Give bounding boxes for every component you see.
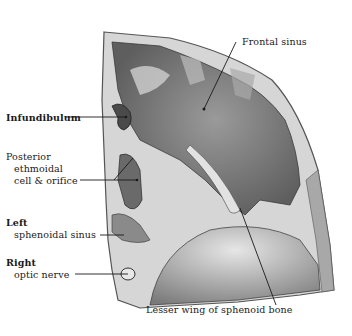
label-left-sphenoidal-1: Left xyxy=(6,217,28,228)
label-frontal-sinus: Frontal sinus xyxy=(242,36,307,47)
anatomy-figure: Frontal sinus Infundibulum Posterior eth… xyxy=(0,0,352,336)
label-posterior-ethmoidal-2: ethmoidal xyxy=(6,163,63,174)
label-lesser-wing: Lesser wing of sphenoid bone xyxy=(146,304,293,315)
label-right-optic-1: Right xyxy=(6,257,36,268)
label-right-optic-2: optic nerve xyxy=(6,269,69,280)
label-posterior-ethmoidal-1: Posterior xyxy=(6,151,51,162)
label-posterior-ethmoidal-3: cell & orifice xyxy=(6,175,78,186)
label-infundibulum: Infundibulum xyxy=(6,112,81,123)
label-left-sphenoidal-2: sphenoidal sinus xyxy=(6,229,96,240)
